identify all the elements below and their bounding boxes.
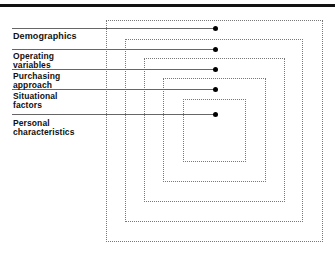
label-purchasing-approach: Purchasingapproach xyxy=(13,72,60,89)
label-demographics: Demographics xyxy=(13,32,77,41)
top-rule xyxy=(0,4,335,7)
leader-line-2 xyxy=(12,49,215,50)
leader-dot-4 xyxy=(213,87,218,92)
leader-dot-3 xyxy=(213,67,218,72)
label-situational-factors: Situationalfactors xyxy=(13,92,58,109)
leader-dot-2 xyxy=(213,47,218,52)
layer-box-5 xyxy=(183,99,246,162)
leader-dot-1 xyxy=(213,26,218,31)
leader-dot-5 xyxy=(213,112,218,117)
label-personal-characteristics: Personalcharacteristics xyxy=(13,119,75,136)
label-operating-variables: Operatingvariables xyxy=(13,52,54,69)
leader-line-1 xyxy=(12,28,215,29)
leader-line-5 xyxy=(12,114,215,115)
